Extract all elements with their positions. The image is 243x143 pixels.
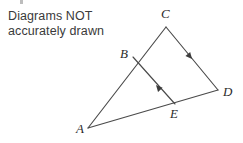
vertex-label-D: D (222, 84, 233, 99)
vertex-label-B: B (120, 46, 128, 61)
edge-A-C (88, 27, 166, 128)
geometry-figure: A B C D E (0, 0, 243, 143)
edge-C-D (166, 27, 218, 90)
edge-B-E (133, 57, 175, 104)
vertex-label-E: E (169, 106, 178, 121)
vertex-label-A: A (75, 121, 84, 136)
vertex-label-C: C (161, 6, 170, 21)
edge-A-D (88, 90, 218, 128)
diagram-screen: Diagrams NOT accurately drawn A B C D E (0, 0, 243, 143)
arrow-on-EB (154, 83, 163, 92)
